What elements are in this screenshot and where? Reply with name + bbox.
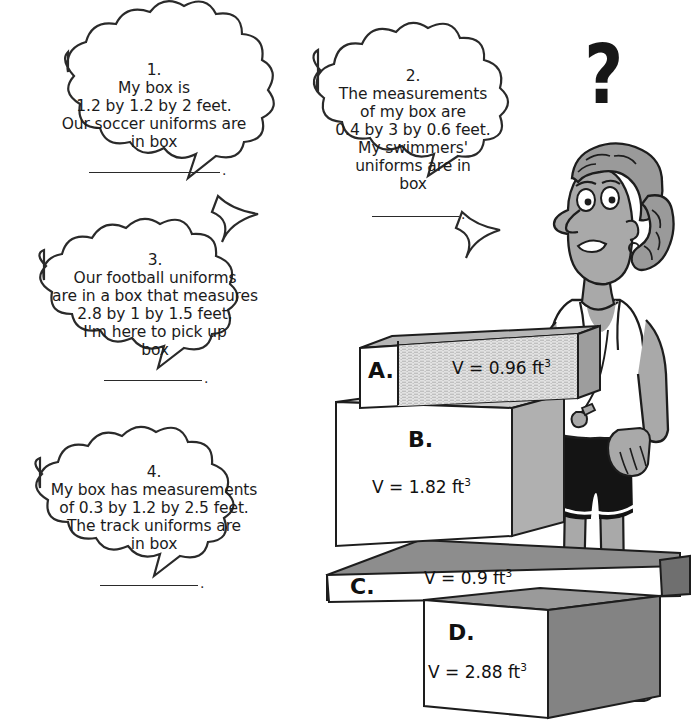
box-b-exponent: 3 xyxy=(464,476,471,488)
box-d-volume-text: V = 2.88 ft xyxy=(428,662,520,682)
box-a-volume-text: V = 0.96 ft xyxy=(452,358,544,378)
box-c-volume-text: V = 0.9 ft xyxy=(424,568,505,588)
box-d-letter: D. xyxy=(448,620,475,645)
bubble-4-answer-blank[interactable] xyxy=(100,585,198,586)
bubble-3-answer-blank[interactable] xyxy=(104,380,202,381)
box-d-exponent: 3 xyxy=(520,661,527,673)
box-b-letter: B. xyxy=(408,427,433,452)
bubble-2-answer-blank[interactable] xyxy=(372,216,459,217)
bubble-3-period: . xyxy=(204,371,208,385)
coach-head xyxy=(554,168,639,284)
box-b-volume-text: V = 1.82 ft xyxy=(372,477,464,497)
box-a-volume: V = 0.96 ft3 xyxy=(452,358,551,378)
box-c-volume: V = 0.9 ft3 xyxy=(424,568,512,588)
box-b-shape xyxy=(336,386,564,546)
box-d-shape xyxy=(424,588,660,718)
worksheet-page: ? 1. My box is 1.2 by 1.2 by 2 feet. Our… xyxy=(0,0,698,725)
bubble-2-period: . xyxy=(461,207,465,221)
bubble-1-answer-blank[interactable] xyxy=(89,172,220,173)
bubble-1-period: . xyxy=(222,163,226,177)
bubble-2-text: 2. The measurements of my box are 0.4 by… xyxy=(318,68,508,194)
bubble-3-text: 3. Our football uniforms are in a box th… xyxy=(24,252,286,360)
box-b-volume: V = 1.82 ft3 xyxy=(372,477,471,497)
question-mark: ? xyxy=(584,34,623,116)
box-a-letter: A. xyxy=(368,358,394,383)
bubble-1-text: 1. My box is 1.2 by 1.2 by 2 feet. Our s… xyxy=(36,62,272,152)
box-c-exponent: 3 xyxy=(505,567,512,579)
bubble-tails xyxy=(212,196,500,258)
bubble-4-text: 4. My box has measurements of 0.3 by 1.2… xyxy=(22,464,286,554)
bubble-4-period: . xyxy=(200,576,204,590)
box-c-letter: C. xyxy=(350,574,375,599)
box-d-volume: V = 2.88 ft3 xyxy=(428,662,527,682)
box-a-exponent: 3 xyxy=(544,357,551,369)
